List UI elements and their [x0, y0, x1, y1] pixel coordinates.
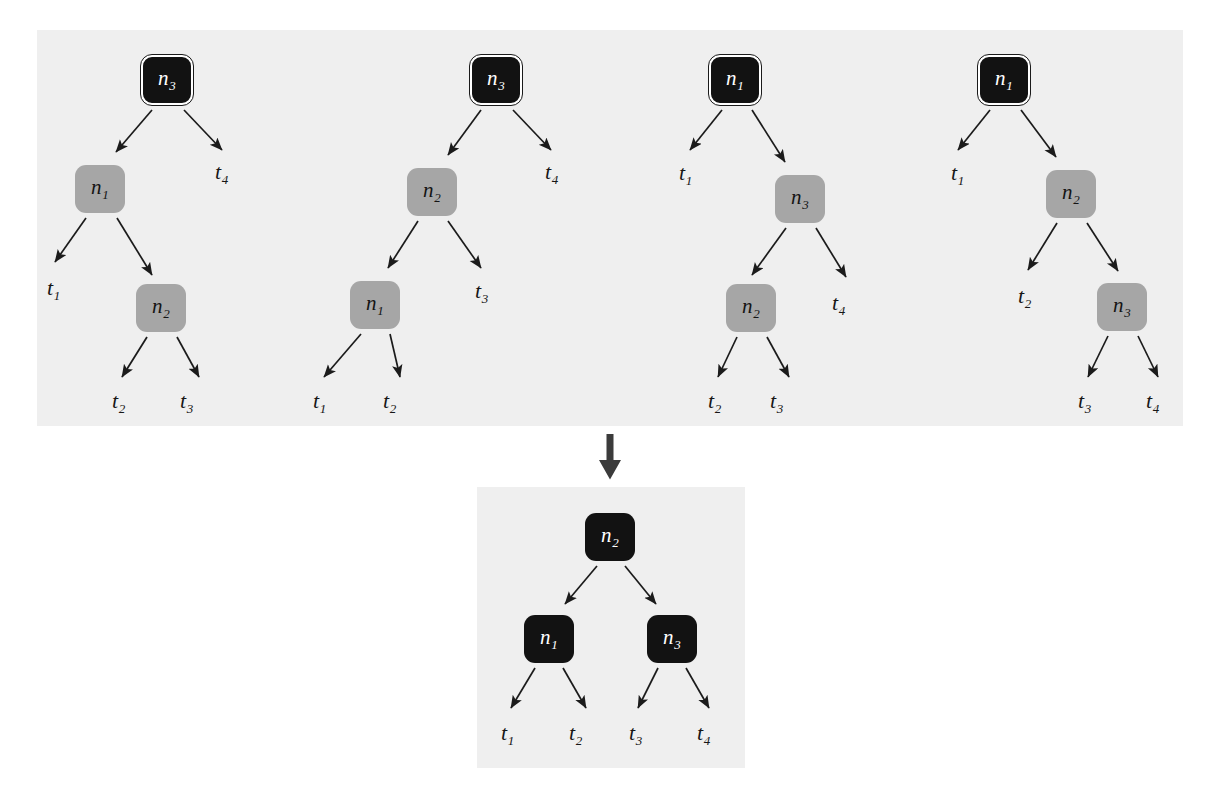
node-label: n3	[1113, 295, 1131, 319]
node-label: n1	[540, 627, 558, 651]
leaf-label-t1-t4: t4	[215, 161, 228, 186]
leaf-label-t4-t1: t1	[951, 162, 964, 187]
tree-node-t1-n1: n1	[75, 165, 125, 213]
leaf-label-t3-t4: t4	[832, 292, 845, 317]
leaf-label-c-t4: t4	[697, 722, 710, 747]
node-label: n2	[1062, 182, 1080, 206]
leaf-label-c-t2: t2	[569, 722, 582, 747]
leaf-label-c-t1: t1	[501, 722, 514, 747]
leaf-label-t2-t4: t4	[545, 161, 558, 186]
leaf-label-t3-t1: t1	[679, 162, 692, 187]
tree-node-t3-n3: n3	[775, 175, 825, 223]
tree-node-t2-root: n3	[470, 55, 522, 105]
leaf-label-t4-t3: t3	[1078, 390, 1091, 415]
tree-node-c-root: n2	[585, 513, 635, 561]
down-arrow-icon	[598, 434, 622, 480]
leaf-label-t1-t3: t3	[180, 390, 193, 415]
node-label: n2	[742, 296, 760, 320]
leaf-label-t4-t4: t4	[1146, 390, 1159, 415]
tree-node-c-n1: n1	[524, 615, 574, 663]
tree-node-t3-root: n1	[709, 55, 761, 105]
leaf-label-t1-t2: t2	[112, 390, 125, 415]
tree-node-t1-root: n3	[141, 55, 193, 105]
leaf-label-t4-t2: t2	[1018, 285, 1031, 310]
leaf-label-t2-t3: t3	[475, 280, 488, 305]
node-label: n1	[91, 177, 109, 201]
tree-node-t2-n2: n2	[407, 168, 457, 216]
tree-node-t4-n3: n3	[1097, 283, 1147, 331]
node-label: n2	[601, 525, 619, 549]
leaf-label-t3-t3: t3	[770, 390, 783, 415]
leaf-label-t3-t2: t2	[708, 390, 721, 415]
node-label: n2	[423, 180, 441, 204]
node-label: n1	[995, 68, 1013, 92]
node-label: n3	[158, 68, 176, 92]
leaf-label-t2-t1: t1	[313, 390, 326, 415]
tree-node-t2-n1: n1	[350, 281, 400, 329]
tree-node-c-n3: n3	[647, 615, 697, 663]
leaf-label-t1-t1: t1	[47, 277, 60, 302]
tree-node-t1-n2: n2	[136, 284, 186, 332]
node-label: n2	[152, 296, 170, 320]
leaf-label-c-t3: t3	[629, 722, 642, 747]
tree-node-t3-n2: n2	[726, 284, 776, 332]
leaf-label-t2-t2: t2	[383, 390, 396, 415]
node-label: n3	[487, 68, 505, 92]
node-label: n1	[726, 68, 744, 92]
node-label: n3	[791, 187, 809, 211]
node-label: n1	[366, 293, 384, 317]
node-label: n3	[663, 627, 681, 651]
tree-node-t4-n2: n2	[1046, 170, 1096, 218]
figure-canvas: n3n1n2t4t1t2t3n3n2n1t4t3t1t2n1n3n2t1t4t2…	[0, 0, 1212, 794]
tree-node-t4-root: n1	[978, 55, 1030, 105]
